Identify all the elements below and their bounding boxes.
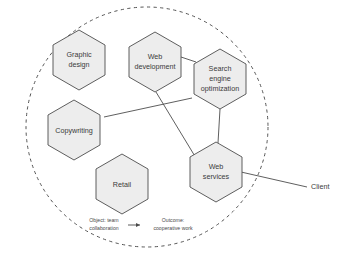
hexagon-label-line: Web (148, 52, 163, 61)
caption-outcome-line-1: Outcome: (162, 217, 185, 223)
hexagon-label-line: development (134, 62, 175, 71)
connector-copywriting-seo (104, 98, 192, 117)
external-node-client-label: Client (311, 182, 329, 191)
diagram-svg: Graphic design Web development Search en… (0, 0, 350, 262)
connector-webservices-client (241, 172, 307, 187)
hexagon-node-web-development[interactable]: Web development (129, 32, 181, 92)
hexagon-label-line: engine (209, 74, 231, 83)
hexagon-node-web-services[interactable]: Web services (190, 142, 242, 202)
hexagon-node-graphic-design[interactable]: Graphic design (53, 30, 105, 90)
hexagon-label-line: design (68, 60, 89, 69)
caption-object-line-2: collaboration (89, 225, 119, 231)
diagram-canvas: Graphic design Web development Search en… (0, 0, 350, 262)
caption-outcome-line-2: cooperative work (153, 225, 193, 231)
hexagon-label-line: Copywriting (55, 126, 93, 135)
hexagon-label-line: Retail (113, 180, 132, 189)
hexagon-node-search-engine-optimization[interactable]: Search engine optimization (194, 49, 246, 109)
hexagon-label-line: Web (209, 162, 224, 171)
caption-object-line-1: Object: team (89, 217, 118, 223)
hexagon-node-retail[interactable]: Retail (96, 154, 148, 214)
hexagon-label-line: Search (209, 64, 232, 73)
hexagon-label-line: services (203, 172, 230, 181)
hexagon-node-copywriting[interactable]: Copywriting (48, 100, 100, 160)
connector-seo-webservices (218, 109, 220, 143)
hexagon-label-line: optimization (201, 84, 239, 93)
caption-arrow-icon (128, 223, 140, 227)
hexagon-label-line: Graphic (66, 50, 92, 59)
